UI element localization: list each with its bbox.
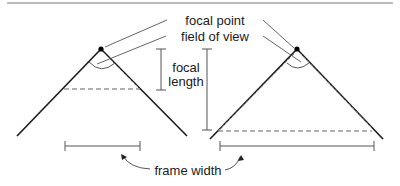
left-focal-point-dot (98, 46, 103, 51)
frame-width-arrow-left (123, 156, 150, 169)
focal-point-label: focal point (185, 13, 245, 28)
focal-point-leader-left (105, 20, 167, 47)
focal-point-leader-right (263, 20, 294, 48)
fov-leader-left (97, 36, 166, 64)
arrowhead-right-icon (238, 155, 244, 161)
right-cone (210, 46, 383, 139)
arrowhead-left-icon (121, 154, 127, 160)
right-fov-arc (287, 63, 309, 68)
right-focal-point-dot (294, 46, 299, 51)
focal-length-diagram: focal point field of view focal length f… (0, 0, 400, 186)
focal-length-label-line1: focal (172, 60, 200, 75)
left-fov-arc (89, 62, 115, 69)
left-cone-left-edge (17, 49, 101, 136)
frame-width-arrow-right (225, 157, 240, 170)
frame-width-bars (65, 141, 374, 151)
focal-length-label-line2: length (168, 74, 203, 89)
field-of-view-label: field of view (181, 29, 250, 44)
frame-width-label: frame width (154, 163, 221, 178)
